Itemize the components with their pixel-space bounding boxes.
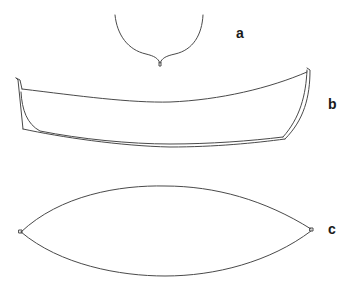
cross-section-right-curve [160,15,203,63]
figure-canvas: a b c [0,0,354,295]
panel-label-c: c [328,222,336,236]
plan-upper-curve [21,186,311,232]
stern-point-marker [310,228,313,231]
line-drawing [0,0,354,295]
bow-point-marker [19,230,22,233]
panel-b-side-view [16,68,310,147]
plan-lower-curve [21,231,311,276]
cross-section-left-curve [115,15,160,63]
sheer-line [22,72,307,102]
panel-label-a: a [236,26,244,40]
panel-c-plan-view [19,186,313,276]
panel-label-b: b [328,97,337,111]
panel-a-cross-section [115,15,203,66]
